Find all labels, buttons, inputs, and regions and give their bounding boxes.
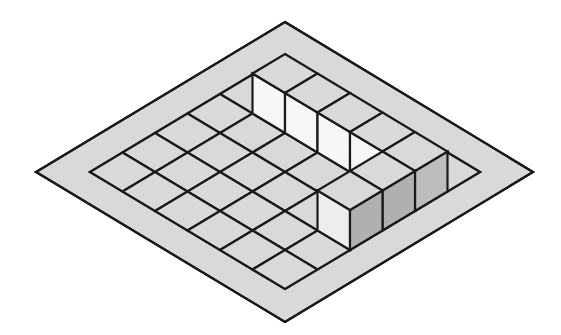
isometric-figure-svg: [0, 0, 561, 335]
figure-root: [0, 0, 561, 335]
